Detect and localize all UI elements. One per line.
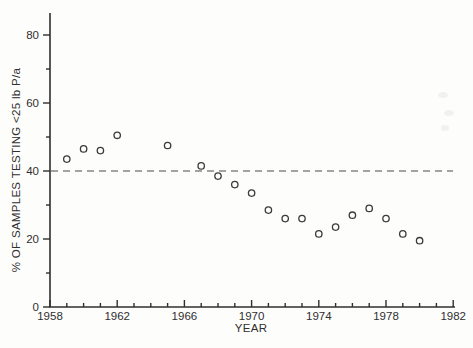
data-point [215,173,221,179]
y-tick-label: 80 [26,29,39,41]
data-point [416,238,422,244]
data-point [282,215,288,221]
scan-artifact [444,110,454,116]
chart-canvas: 0204060801958196219661970197419781982 [0,0,473,348]
y-tick-label: 20 [26,233,39,245]
y-tick-label: 60 [26,97,39,109]
data-point [97,147,103,153]
scan-artifact [441,125,449,131]
x-tick-label: 1982 [440,310,466,322]
data-point [316,231,322,237]
data-point [349,212,355,218]
data-point [232,181,238,187]
x-tick-label: 1978 [373,310,399,322]
data-point [114,132,120,138]
data-point [332,224,338,230]
data-point [400,231,406,237]
data-point [80,146,86,152]
x-tick-label: 1966 [172,310,198,322]
data-point [383,215,389,221]
x-tick-label: 1970 [239,310,265,322]
y-tick-label: 40 [26,165,39,177]
data-point [366,205,372,211]
x-tick-label: 1962 [104,310,130,322]
scatter-plot-figure: 0204060801958196219661970197419781982 % … [0,0,473,348]
y-axis-label: % OF SAMPLES TESTING <25 lb P/a [10,68,22,272]
data-point [64,156,70,162]
data-point [248,190,254,196]
data-point [198,163,204,169]
data-point [265,207,271,213]
data-point [299,215,305,221]
scan-artifact [438,92,448,98]
x-tick-label: 1958 [37,310,63,322]
data-point [164,142,170,148]
x-tick-label: 1974 [306,310,332,322]
x-axis-label: YEAR [235,322,268,334]
